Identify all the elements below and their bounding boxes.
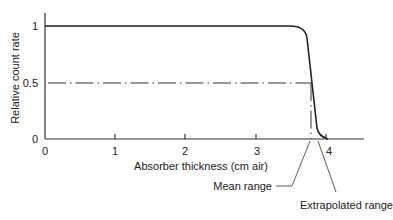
half-intensity-reference: [48, 83, 311, 139]
x-axis-title: Absorber thickness (cm air): [134, 160, 268, 172]
y-axis-title: Relative count rate: [9, 32, 21, 124]
y-tick-label-0.5: 0.5: [23, 77, 38, 89]
mean-range-label: Mean range: [213, 180, 272, 192]
x-tick-label-4: 4: [326, 145, 332, 157]
range-curve-chart: 1 0.5 0 0 1 2 3 4 Absorber thickness (cm…: [0, 0, 393, 220]
y-tick-label-1: 1: [32, 20, 38, 32]
x-tick-label-3: 3: [254, 145, 260, 157]
mean-range-leader: [276, 141, 310, 186]
y-tick-label-0: 0: [32, 133, 38, 145]
x-tick-label-0: 0: [42, 145, 48, 157]
x-tick-label-1: 1: [112, 145, 118, 157]
x-tick-label-2: 2: [182, 145, 188, 157]
extrapolated-range-label: Extrapolated range: [300, 199, 393, 211]
